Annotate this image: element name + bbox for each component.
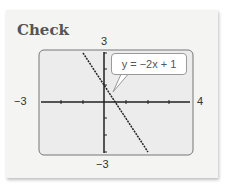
graph-screen	[0, 0, 227, 187]
equation-callout: y = −2x + 1	[111, 53, 187, 75]
